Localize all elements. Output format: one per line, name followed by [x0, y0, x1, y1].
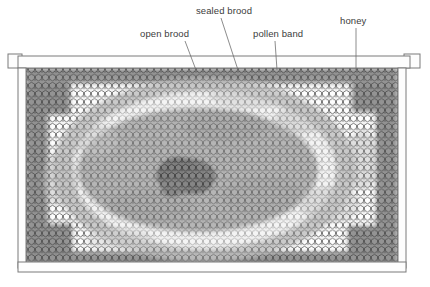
comb-surface — [26, 68, 398, 264]
label-honey-text: honey — [340, 15, 367, 26]
figure-canvas: open brood sealed brood pollen band hone… — [0, 0, 430, 287]
comb-frame-diagram: open brood sealed brood pollen band hone… — [0, 0, 430, 287]
frame-bottom-bar — [18, 262, 406, 272]
frame-top-bar — [18, 56, 410, 68]
label-sealed-brood-text: sealed brood — [196, 5, 252, 16]
label-pollen-band-text: pollen band — [253, 28, 303, 39]
frame-right-side-bar — [398, 68, 406, 268]
frame-left-side-bar — [18, 68, 26, 268]
label-open-brood-text: open brood — [140, 28, 189, 39]
comb-grain — [26, 68, 398, 264]
